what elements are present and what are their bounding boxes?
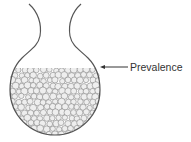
prevalence-label: Prevalence xyxy=(130,61,183,73)
beads-contents xyxy=(5,66,101,138)
prevalence-arrow xyxy=(100,65,128,69)
prevalence-flask-diagram: Prevalence xyxy=(0,0,191,142)
